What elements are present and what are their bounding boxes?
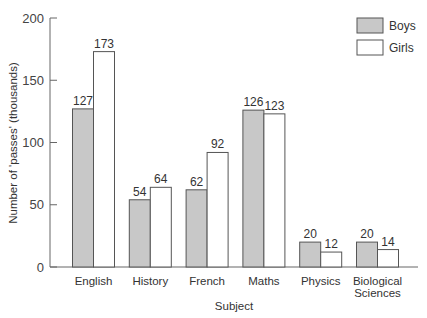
bars: 127173English5464History6292French126123… xyxy=(73,37,403,299)
legend-item-girls: Girls xyxy=(357,40,414,55)
legend-label: Girls xyxy=(389,41,414,55)
x-axis-title: Subject xyxy=(215,300,254,312)
bar-group: 127173English xyxy=(73,37,115,287)
bar-group: 6292French xyxy=(186,137,228,287)
bar-girls xyxy=(94,52,115,267)
legend: BoysGirls xyxy=(357,18,416,55)
bar-girls xyxy=(264,114,285,267)
value-label: 20 xyxy=(360,227,374,241)
category-label: French xyxy=(189,275,225,287)
bar-boys xyxy=(73,109,94,267)
legend-swatch xyxy=(357,18,383,33)
y-tick-label: 200 xyxy=(22,11,44,26)
value-label: 126 xyxy=(243,95,263,109)
category-label: English xyxy=(75,275,113,287)
value-label: 54 xyxy=(133,185,147,199)
category-label: Sciences xyxy=(354,287,401,299)
category-label: Physics xyxy=(301,275,341,287)
bar-boys xyxy=(243,110,264,267)
value-label: 127 xyxy=(73,94,93,108)
bar-boys xyxy=(357,242,378,267)
y-tick-label: 0 xyxy=(37,260,44,275)
legend-item-boys: Boys xyxy=(357,18,416,33)
value-label: 12 xyxy=(325,237,339,251)
bar-girls xyxy=(150,187,171,267)
y-tick-label: 50 xyxy=(30,197,44,212)
category-label: Maths xyxy=(248,275,280,287)
value-label: 62 xyxy=(190,175,204,189)
bar-boys xyxy=(300,242,321,267)
value-label: 14 xyxy=(381,235,395,249)
bar-girls xyxy=(207,152,228,267)
category-label: History xyxy=(132,275,168,287)
value-label: 123 xyxy=(264,99,284,113)
y-axis: 050100150200 xyxy=(22,11,57,275)
bar-girls xyxy=(321,252,342,267)
bar-boys xyxy=(129,200,150,267)
bar-group: 2014BiologicalSciences xyxy=(353,227,402,299)
bar-group: 2012Physics xyxy=(300,227,342,287)
bar-group: 126123Maths xyxy=(243,95,285,287)
legend-swatch xyxy=(357,40,383,55)
bar-boys xyxy=(186,190,207,267)
y-tick-label: 100 xyxy=(22,135,44,150)
value-label: 64 xyxy=(154,172,168,186)
bar-chart: 050100150200 127173English5464History629… xyxy=(0,0,427,318)
bar-girls xyxy=(378,250,399,267)
value-label: 173 xyxy=(94,37,114,51)
value-label: 20 xyxy=(304,227,318,241)
value-label: 92 xyxy=(211,137,225,151)
legend-label: Boys xyxy=(389,19,416,33)
category-label: Biological xyxy=(353,275,402,287)
bar-group: 5464History xyxy=(129,172,171,287)
y-axis-title: Number of 'passes' (thousands) xyxy=(7,62,19,224)
y-tick-label: 150 xyxy=(22,73,44,88)
